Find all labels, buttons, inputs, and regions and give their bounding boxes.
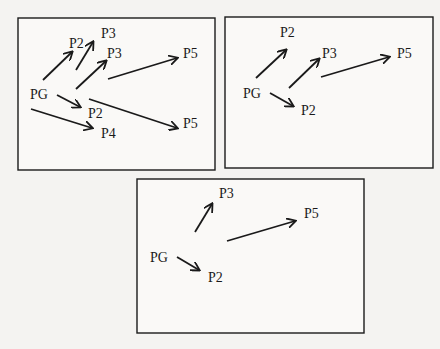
node-label-p5: P5 bbox=[397, 46, 412, 61]
diagram-canvas: P3 P2 P3 P5 PG P2 P5 P4 P2 P3 P5 PG P2 P… bbox=[0, 0, 440, 349]
panel-3-frame bbox=[137, 179, 364, 333]
panel-3: P3 P5 PG P2 bbox=[137, 179, 364, 333]
node-label-p3: P3 bbox=[101, 26, 116, 41]
node-label-p5: P5 bbox=[183, 116, 198, 131]
node-label-p5: P5 bbox=[183, 46, 198, 61]
node-label-p5: P5 bbox=[304, 206, 319, 221]
node-label-p3: P3 bbox=[107, 46, 122, 61]
node-label-p3: P3 bbox=[219, 186, 234, 201]
node-label-pg: PG bbox=[243, 86, 261, 101]
node-label-p2: P2 bbox=[208, 270, 223, 285]
node-label-p2: P2 bbox=[280, 25, 295, 40]
panel-1: P3 P2 P3 P5 PG P2 P5 P4 bbox=[18, 18, 215, 170]
node-label-p3: P3 bbox=[322, 46, 337, 61]
node-label-p2: P2 bbox=[69, 36, 84, 51]
node-label-pg: PG bbox=[150, 250, 168, 265]
panel-2: P2 P3 P5 PG P2 bbox=[225, 17, 433, 168]
node-label-pg: PG bbox=[30, 87, 48, 102]
node-label-p4: P4 bbox=[101, 126, 116, 141]
node-label-p2: P2 bbox=[301, 103, 316, 118]
node-label-p2: P2 bbox=[88, 106, 103, 121]
